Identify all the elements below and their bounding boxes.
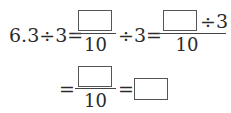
- equals-sign-row2: =: [59, 80, 75, 99]
- denominator-1: 10: [75, 36, 116, 54]
- answer-blank-1[interactable]: [78, 10, 112, 31]
- answer-blank-2[interactable]: [163, 10, 197, 31]
- expression-lhs: 6.3÷3=: [9, 26, 83, 45]
- answer-blank-3[interactable]: [78, 66, 112, 87]
- denominator-3: 10: [75, 92, 116, 110]
- divide-by-three-equals: ÷3=: [118, 26, 162, 45]
- numerator-divide-suffix: ÷3: [200, 12, 228, 31]
- equals-sign-final: =: [118, 80, 134, 99]
- answer-blank-final[interactable]: [134, 78, 168, 100]
- denominator-2: 10: [158, 36, 216, 54]
